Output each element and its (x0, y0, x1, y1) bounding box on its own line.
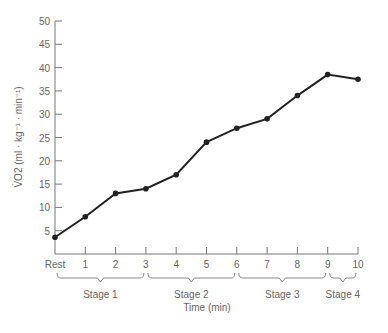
x-axis: Rest12345678910 (45, 247, 364, 270)
x-tick-label: 5 (204, 259, 210, 270)
y-tick-label: 45 (39, 39, 51, 50)
y-tick-label: 35 (39, 86, 51, 97)
x-tick-label: 3 (143, 259, 149, 270)
stage-label: Stage 4 (326, 289, 361, 300)
data-point (325, 72, 331, 78)
y-axis-label: V̇O2 (ml · kg⁻¹ · min⁻¹) (12, 86, 24, 187)
stage-brace (148, 273, 235, 282)
y-tick-label: 10 (39, 202, 51, 213)
y-tick-label: 15 (39, 179, 51, 190)
x-axis-label: Time (min) (183, 302, 230, 313)
y-tick-label: 20 (39, 156, 51, 167)
vo2-series (52, 72, 361, 240)
x-tick-label: 10 (352, 259, 364, 270)
stage-label: Stage 3 (265, 289, 300, 300)
x-tick-label: 4 (173, 259, 179, 270)
x-tick-label: 9 (325, 259, 331, 270)
stage-braces: Stage 1Stage 2Stage 3Stage 4 (57, 273, 361, 300)
vo2-line (55, 75, 358, 238)
y-axis: 5101520253035404550 (39, 16, 62, 254)
x-tick-label: Rest (45, 259, 66, 270)
data-point (113, 191, 119, 197)
y-tick-label: 40 (39, 63, 51, 74)
data-point (234, 125, 240, 131)
x-tick-label: 1 (83, 259, 89, 270)
stage-label: Stage 2 (174, 289, 209, 300)
stage-brace (330, 273, 356, 282)
stage-brace (57, 273, 144, 282)
x-tick-label: 8 (295, 259, 301, 270)
y-tick-label: 30 (39, 109, 51, 120)
data-point (83, 214, 89, 220)
y-tick-label: 5 (44, 226, 50, 237)
vo2-line-chart: 5101520253035404550 Rest12345678910 Stag… (0, 0, 388, 333)
stage-label: Stage 1 (83, 289, 118, 300)
x-tick-label: 2 (113, 259, 119, 270)
data-point (204, 139, 210, 145)
data-point (173, 172, 179, 178)
x-tick-label: 7 (264, 259, 270, 270)
data-point (264, 116, 270, 122)
data-point (52, 234, 58, 240)
stage-brace (239, 273, 326, 282)
y-tick-label: 50 (39, 16, 51, 27)
data-point (143, 186, 149, 192)
x-tick-label: 6 (234, 259, 240, 270)
data-point (295, 93, 301, 99)
data-point (355, 76, 361, 82)
y-tick-label: 25 (39, 133, 51, 144)
